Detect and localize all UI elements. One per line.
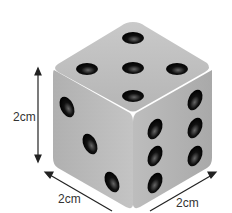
height-label: 2cm	[13, 110, 36, 124]
width-label: 2cm	[176, 196, 199, 210]
depth-label: 2cm	[58, 192, 81, 206]
die-diagram	[0, 0, 232, 213]
